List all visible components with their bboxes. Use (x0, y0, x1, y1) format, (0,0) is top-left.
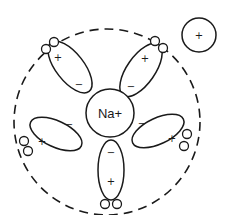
free-positive-ion: + (182, 18, 216, 52)
hydrogen-atom (180, 142, 189, 151)
positive-sign: + (54, 52, 62, 63)
central-sodium-ion: Na+ (86, 89, 134, 137)
hydrated-ion-diagram: + − + − + − + − − + Na+ + (0, 0, 233, 215)
hydrogen-atom (183, 130, 192, 139)
hydrogen-atom (42, 45, 51, 54)
negative-sign: − (75, 79, 83, 90)
positive-sign: + (141, 53, 149, 64)
hydrogen-atom (113, 200, 122, 209)
positive-sign: + (38, 136, 46, 147)
water-molecule-right: + − (127, 107, 191, 154)
hydrogen-atom (159, 44, 168, 53)
positive-sign: + (168, 133, 176, 144)
hydrogen-atom (50, 38, 59, 47)
hydrogen-atom (20, 137, 29, 146)
negative-sign: − (127, 81, 135, 92)
negative-sign: − (65, 119, 73, 130)
water-molecule-bottom: − + (98, 140, 124, 209)
sodium-ion-label: Na+ (98, 106, 122, 121)
negative-sign: − (138, 118, 146, 129)
water-molecule-top-left: + − (40, 34, 100, 100)
hydrogen-atom (24, 147, 33, 156)
positive-sign: + (107, 176, 115, 187)
water-molecule-left: + − (20, 110, 87, 157)
hydrogen-atom (101, 200, 110, 209)
positive-sign: + (195, 30, 203, 41)
hydrogen-atom (151, 37, 160, 46)
negative-sign: − (107, 147, 115, 158)
